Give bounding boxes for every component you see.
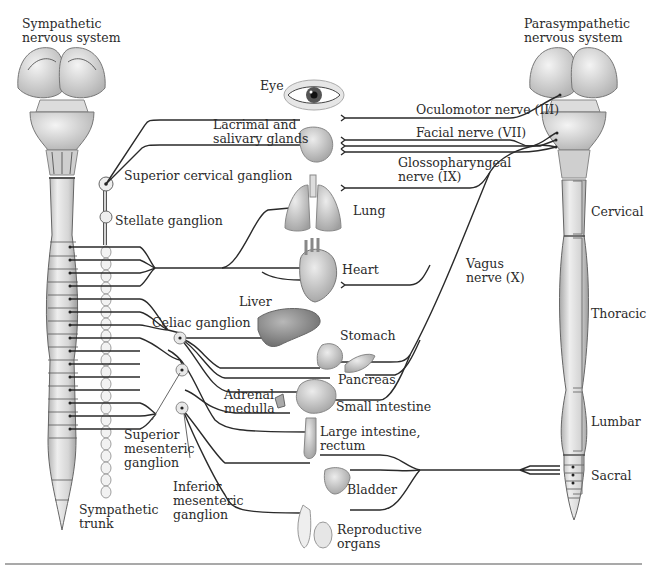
label-reproductive-line1: Reproductive <box>337 523 422 537</box>
autonomic-nervous-system-diagram: Sympathetic nervous system Parasympathet… <box>0 0 647 571</box>
label-stellate-ganglion: Stellate ganglion <box>115 214 223 228</box>
heart-organ <box>300 238 337 302</box>
label-large-intestine-line1: Large intestine, <box>320 425 420 439</box>
label-lung: Lung <box>353 204 385 218</box>
label-oculomotor-nerve: Oculomotor nerve (III) <box>416 103 559 117</box>
label-sup-mesenteric-line3: ganglion <box>124 456 195 470</box>
label-heart: Heart <box>342 263 379 277</box>
left-spinal-cord <box>46 178 78 530</box>
pancreas-organ <box>345 354 375 372</box>
lung-organ <box>285 175 341 231</box>
parasympathetic-title-line1: Parasympathetic <box>524 17 630 31</box>
adrenal-medulla-organ <box>275 394 285 408</box>
label-inf-mesenteric-line3: ganglion <box>173 508 244 522</box>
label-glossopharyngeal-line1: Glossopharyngeal <box>398 156 511 170</box>
label-superior-mesenteric-ganglion: Superior mesenteric ganglion <box>124 428 195 470</box>
label-liver: Liver <box>239 295 272 309</box>
label-vagus-line1: Vagus <box>466 257 525 271</box>
sympathetic-title-line1: Sympathetic <box>22 17 121 31</box>
parasympathetic-title-line2: nervous system <box>524 31 630 45</box>
label-lumbar: Lumbar <box>591 415 641 429</box>
superior-mesenteric-ganglion <box>176 364 188 376</box>
label-cervical: Cervical <box>591 205 643 219</box>
left-brainstem <box>18 48 105 175</box>
label-eye: Eye <box>260 79 284 93</box>
label-reproductive-organs: Reproductive organs <box>337 523 422 551</box>
label-inferior-mesenteric-ganglion: Inferior mesenteric ganglion <box>173 480 244 522</box>
label-lacrimal-line2: salivary glands <box>213 132 308 146</box>
cord-dots <box>69 246 72 431</box>
small-intestine-organ <box>296 380 336 414</box>
label-facial-nerve: Facial nerve (VII) <box>416 126 526 140</box>
label-sup-mesenteric-line2: mesenteric <box>124 442 195 456</box>
label-vagus-nerve: Vagus nerve (X) <box>466 257 525 285</box>
reproductive-organ <box>298 505 332 548</box>
sup-mesenteric-leader <box>152 373 180 420</box>
label-vagus-line2: nerve (X) <box>466 271 525 285</box>
label-adrenal-line1: Adrenal <box>224 388 268 402</box>
inferior-mesenteric-ganglion <box>176 402 188 414</box>
label-reproductive-line2: organs <box>337 537 422 551</box>
large-intestine-organ <box>304 418 316 459</box>
stomach-organ <box>317 344 342 369</box>
sympathetic-title-line2: nervous system <box>22 31 121 45</box>
label-celiac-ganglion: Celiac ganglion <box>152 316 250 330</box>
label-trunk-line1: Sympathetic <box>79 503 158 517</box>
label-stomach: Stomach <box>340 329 395 343</box>
diagram-drawing <box>0 0 647 571</box>
right-spinal-cord <box>560 180 589 520</box>
label-lacrimal-glands: Lacrimal and salivary glands <box>213 118 308 146</box>
sympathetic-title: Sympathetic nervous system <box>22 17 121 45</box>
label-small-intestine: Small intestine <box>336 400 431 414</box>
label-adrenal-medulla: Adrenal medulla <box>224 388 268 416</box>
parasympathetic-title: Parasympathetic nervous system <box>524 17 630 45</box>
label-inf-mesenteric-line2: mesenteric <box>173 494 244 508</box>
label-sympathetic-trunk: Sympathetic trunk <box>79 503 158 531</box>
label-glossopharyngeal-line2: nerve (IX) <box>398 170 511 184</box>
label-large-intestine-line2: rectum <box>320 439 420 453</box>
label-sacral: Sacral <box>591 469 631 483</box>
label-pancreas: Pancreas <box>338 373 396 387</box>
sympathetic-rami <box>70 247 156 429</box>
label-glossopharyngeal-nerve: Glossopharyngeal nerve (IX) <box>398 156 511 184</box>
label-thoracic: Thoracic <box>591 307 646 321</box>
celiac-ganglion <box>174 332 186 344</box>
liver-organ <box>258 308 320 346</box>
label-large-intestine: Large intestine, rectum <box>320 425 420 453</box>
eye-organ <box>284 80 344 110</box>
label-sup-mesenteric-line1: Superior <box>124 428 195 442</box>
label-inf-mesenteric-line1: Inferior <box>173 480 244 494</box>
label-superior-cervical-ganglion: Superior cervical ganglion <box>124 169 292 183</box>
label-adrenal-line2: medulla <box>224 402 268 416</box>
label-bladder: Bladder <box>347 483 397 497</box>
label-lacrimal-line1: Lacrimal and <box>213 118 308 132</box>
label-trunk-line2: trunk <box>79 517 158 531</box>
